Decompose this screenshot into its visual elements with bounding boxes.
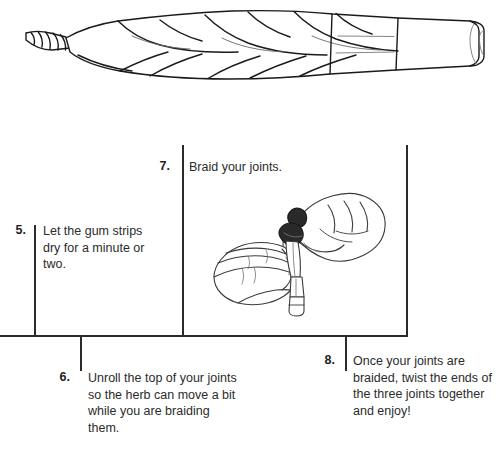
- step-text-6: Unroll the top of your joints so the her…: [88, 370, 238, 436]
- step-text-8: Once your joints are braided, twist the …: [353, 353, 493, 419]
- step-item-6: 6. Unroll the top of your joints so the …: [40, 370, 270, 436]
- instruction-diagram: 5. Let the gum strips dry for a minute o…: [0, 110, 491, 453]
- step-text-7: Braid your joints.: [189, 159, 389, 176]
- step-item-7: 7. Braid your joints.: [140, 159, 420, 176]
- step-item-5: 5. Let the gum strips dry for a minute o…: [0, 223, 175, 273]
- step-item-8: 8. Once your joints are braided, twist t…: [305, 353, 497, 419]
- step-number-5: 5.: [0, 223, 26, 238]
- step-number-8: 8.: [305, 353, 335, 368]
- step-number-6: 6.: [40, 370, 70, 385]
- braided-joint-illustration: [0, 0, 491, 110]
- step-text-5: Let the gum strips dry for a minute or t…: [43, 223, 161, 273]
- divider-step-6: [80, 335, 82, 371]
- hands-braiding-joints-illustration: [196, 185, 396, 335]
- step-number-7: 7.: [140, 159, 170, 174]
